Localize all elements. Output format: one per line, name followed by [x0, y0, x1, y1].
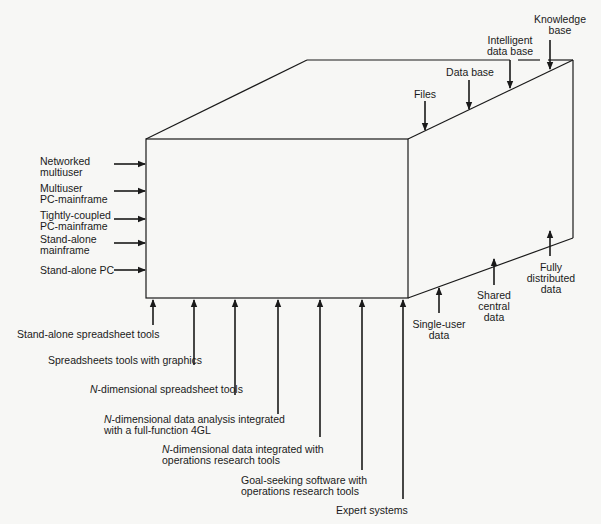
- label-ndim-or: N-dimensional data integrated with opera…: [162, 444, 324, 466]
- label-standalone-pc: Stand-alone PC: [40, 265, 114, 276]
- label-files: Files: [405, 89, 445, 100]
- label-spreadsheets-graphics: Spreadsheets tools with graphics: [48, 355, 202, 366]
- label-line: base: [530, 25, 590, 36]
- cube-front-face: [146, 139, 408, 298]
- label-prefix: N: [90, 383, 98, 395]
- label-line: -dimensional spreadsheet tools: [98, 383, 243, 395]
- label-intelligent-data-base: Intelligent data base: [482, 35, 538, 57]
- label-line: operations research tools: [241, 486, 367, 497]
- label-single-user-data: Single-user data: [408, 319, 470, 341]
- label-line: PC-mainframe: [40, 221, 111, 232]
- label-line: operations research tools: [162, 455, 324, 466]
- label-knowledge-base: Knowledge base: [530, 14, 590, 36]
- label-line: data base: [482, 46, 538, 57]
- label-line: multiuser: [40, 167, 90, 178]
- label-line: Expert systems: [336, 504, 408, 516]
- label-multiuser-pc-mainframe: Multiuser PC-mainframe: [40, 183, 108, 205]
- label-standalone-mainframe: Stand-alone mainframe: [40, 234, 97, 256]
- label-line: PC-mainframe: [40, 194, 108, 205]
- label-ndim-spreadsheet: N-dimensional spreadsheet tools: [90, 384, 243, 395]
- label-line: data: [469, 312, 519, 323]
- label-expert-systems: Expert systems: [336, 505, 408, 516]
- label-goal-seeking: Goal-seeking software with operations re…: [241, 475, 367, 497]
- label-standalone-spreadsheet: Stand-alone spreadsheet tools: [17, 329, 159, 340]
- label-line: Stand-alone PC: [40, 265, 114, 276]
- label-networked-multiuser: Networked multiuser: [40, 156, 90, 178]
- label-fully-distributed-data: Fully distributed data: [521, 262, 581, 295]
- label-tightly-coupled: Tightly-coupled PC-mainframe: [40, 210, 111, 232]
- label-line: data: [521, 284, 581, 295]
- label-line: data: [408, 330, 470, 341]
- label-line: Files: [405, 89, 445, 100]
- label-shared-central-data: Shared central data: [469, 290, 519, 323]
- label-line: with a full-function 4GL: [104, 425, 285, 436]
- label-ndim-4gl: N-dimensional data analysis integrated w…: [104, 414, 285, 436]
- label-line: mainframe: [40, 245, 97, 256]
- label-line: Data base: [444, 67, 496, 78]
- cube-outline: [146, 60, 573, 298]
- label-line: Spreadsheets tools with graphics: [48, 354, 202, 366]
- label-line: Stand-alone spreadsheet tools: [17, 328, 159, 340]
- label-data-base: Data base: [444, 67, 496, 78]
